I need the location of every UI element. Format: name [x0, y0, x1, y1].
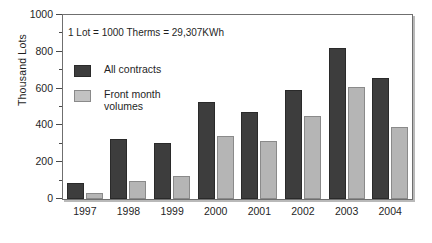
x-tick-label: 2001	[238, 205, 282, 217]
tick-mark	[59, 106, 62, 107]
bar-group	[238, 15, 282, 199]
tick-mark	[59, 143, 62, 144]
y-tick-label: 1000	[30, 8, 53, 20]
x-tick-label: 2003	[325, 205, 369, 217]
y-tick-label: 600	[35, 82, 53, 94]
tick-mark	[59, 32, 62, 33]
bar-front-month-volumes	[86, 193, 103, 199]
tick-mark	[56, 161, 62, 162]
bar-front-month-volumes	[217, 136, 234, 199]
bar-all-contracts	[372, 78, 389, 199]
bar-all-contracts	[241, 112, 258, 199]
x-tick-label: 1999	[150, 205, 194, 217]
tick-mark	[59, 69, 62, 70]
bar-chart: Thousand Lots 02004006008001000 19971998…	[0, 0, 432, 243]
bar-all-contracts	[329, 48, 346, 199]
x-tick-label: 1997	[63, 205, 107, 217]
bar-all-contracts	[198, 102, 215, 199]
x-tick-label: 2000	[194, 205, 238, 217]
tick-mark	[59, 180, 62, 181]
tick-mark	[56, 51, 62, 52]
bar-group	[325, 15, 369, 199]
tick-mark	[56, 198, 62, 199]
legend-item: Front month volumes	[74, 89, 161, 112]
y-tick-label: 800	[35, 45, 53, 57]
legend-label: Front month volumes	[104, 89, 161, 112]
legend-item: All contracts	[74, 64, 161, 77]
bar-front-month-volumes	[348, 87, 365, 199]
legend-swatch-all-contracts	[74, 65, 91, 77]
bar-group	[194, 15, 238, 199]
y-tick-label: 0	[47, 192, 53, 204]
x-tick-label: 2004	[368, 205, 412, 217]
tick-mark	[56, 124, 62, 125]
bar-front-month-volumes	[129, 181, 146, 199]
bar-all-contracts	[67, 183, 84, 199]
tick-mark	[56, 14, 62, 15]
y-tick-label: 200	[35, 155, 53, 167]
unit-note-annotation: 1 Lot = 1000 Therms = 29,307KWh	[68, 27, 224, 38]
chart-legend: All contractsFront month volumes	[74, 64, 161, 124]
y-tick-label: 400	[35, 118, 53, 130]
y-axis-ticks: 02004006008001000	[0, 0, 62, 214]
bar-all-contracts	[110, 139, 127, 199]
bar-group	[368, 15, 412, 199]
bar-front-month-volumes	[304, 116, 321, 199]
bar-front-month-volumes	[391, 127, 408, 199]
bar-group	[281, 15, 325, 199]
legend-label: All contracts	[104, 64, 161, 76]
bar-front-month-volumes	[173, 176, 190, 199]
x-axis-labels: 19971998199920002001200220032004	[63, 205, 412, 225]
bar-all-contracts	[154, 143, 171, 199]
x-tick-label: 2002	[281, 205, 325, 217]
legend-swatch-front-month-volumes	[74, 90, 91, 102]
bar-all-contracts	[285, 90, 302, 199]
x-tick-label: 1998	[107, 205, 151, 217]
bar-front-month-volumes	[260, 141, 277, 199]
tick-mark	[56, 88, 62, 89]
